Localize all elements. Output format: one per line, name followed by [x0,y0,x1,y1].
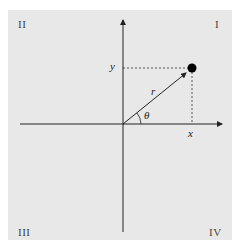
y-label: y [110,60,115,72]
theta-label: θ [144,109,149,121]
quadrant-label-ii: II [18,18,26,30]
polar-coordinate-diagram [0,0,239,250]
quadrant-label-iii: III [18,226,31,238]
point-marker [188,64,197,73]
x-label: x [188,127,193,139]
quadrant-label-i: I [215,18,219,30]
quadrant-label-iv: IV [209,226,222,238]
radius-vector [123,73,186,124]
theta-arc [137,113,141,124]
r-label: r [151,85,155,97]
